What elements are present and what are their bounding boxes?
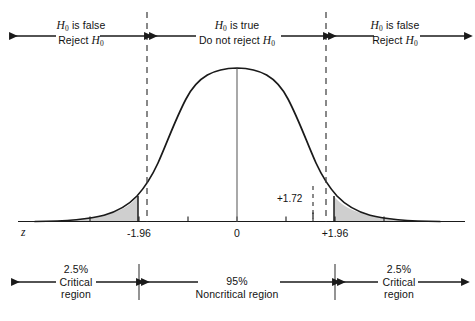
tick-label-zero: 0 [222,227,252,239]
bottom-label-right-critical: 2.5% Critical region [364,263,434,301]
bottom-label-center-percent: 95% [182,275,292,288]
top-label-right-line2: Reject H0 [350,34,440,49]
top-label-left-reject: H0 is false Reject H0 [36,19,126,48]
bottom-label-left-percent: 2.5% [41,263,111,276]
bottom-label-left-critical: 2.5% Critical region [41,263,111,301]
bottom-label-right-percent: 2.5% [364,263,434,276]
top-label-left-line1: H0 is false [36,19,126,34]
top-label-center-line2: Do not reject H0 [182,34,292,49]
tick-label-neg196: -1.96 [109,227,169,239]
bottom-label-right-line2: Critical [364,276,434,289]
tick-label-pos196: +1.96 [305,227,365,239]
hypothesis-test-diagram: H0 is false Reject H0 H0 is true Do not … [0,0,475,321]
top-label-right-line1: H0 is false [350,19,440,34]
bottom-label-center-line2: Noncritical region [182,288,292,301]
top-label-left-line2: Reject H0 [36,34,126,49]
top-label-center-accept: H0 is true Do not reject H0 [182,19,292,48]
bottom-label-left-line3: region [41,288,111,301]
top-label-right-reject: H0 is false Reject H0 [350,19,440,48]
bottom-label-noncritical: 95% Noncritical region [182,275,292,300]
bottom-label-left-line2: Critical [41,276,111,289]
bottom-label-right-line3: region [364,288,434,301]
test-statistic-label: +1.72 [277,193,302,204]
top-label-center-line1: H0 is true [182,19,292,34]
axis-name-z: z [21,226,25,238]
